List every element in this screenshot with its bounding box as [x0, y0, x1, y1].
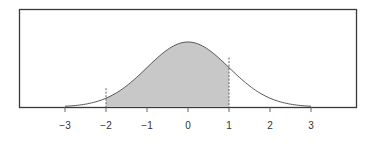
x-tick-label: 3	[308, 120, 314, 131]
normal-distribution-chart: −3−2−10123	[0, 0, 373, 143]
x-tick-label: −2	[100, 120, 112, 131]
x-tick-label: −3	[59, 120, 71, 131]
x-tick-label: 1	[226, 120, 232, 131]
x-tick-label: 2	[267, 120, 273, 131]
x-tick-label: 0	[185, 120, 191, 131]
x-axis: −3−2−10123	[59, 107, 314, 131]
x-tick-label: −1	[141, 120, 153, 131]
